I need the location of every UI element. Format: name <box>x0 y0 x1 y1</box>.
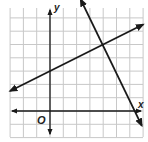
graph-svg: y x O <box>0 0 148 142</box>
coordinate-plane-chart: y x O <box>0 0 148 142</box>
origin-label: O <box>37 114 46 126</box>
x-axis-label: x <box>137 99 144 110</box>
grid-lines <box>10 8 143 138</box>
y-axis-label: y <box>53 2 60 13</box>
